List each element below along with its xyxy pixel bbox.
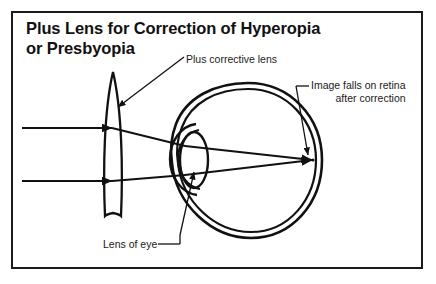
label-plus-corrective-lens: Plus corrective lens bbox=[186, 53, 277, 66]
label-retina-line2: after correction bbox=[336, 92, 406, 104]
optics-diagram bbox=[0, 0, 436, 284]
cornea bbox=[170, 124, 200, 195]
leader-retina bbox=[296, 86, 309, 155]
refracted-ray-upper bbox=[185, 146, 312, 160]
label-image-falls-on-retina: Image falls on retinaafter correction bbox=[311, 79, 406, 105]
refracted-rays bbox=[185, 146, 312, 175]
hyperopia-correction-figure: Plus Lens for Correction of Hyperopiaor … bbox=[0, 0, 436, 284]
lens-of-eye-shape bbox=[180, 132, 208, 188]
leader-plus-corrective-lens bbox=[118, 57, 184, 107]
retina-focal-point bbox=[311, 158, 314, 161]
plus-corrective-lens bbox=[104, 72, 122, 216]
label-retina-line1: Image falls on retina bbox=[311, 79, 406, 91]
refracted-ray-lower bbox=[185, 160, 312, 175]
label-lens-of-eye: Lens of eye bbox=[103, 238, 157, 251]
incoming-rays bbox=[22, 128, 112, 181]
